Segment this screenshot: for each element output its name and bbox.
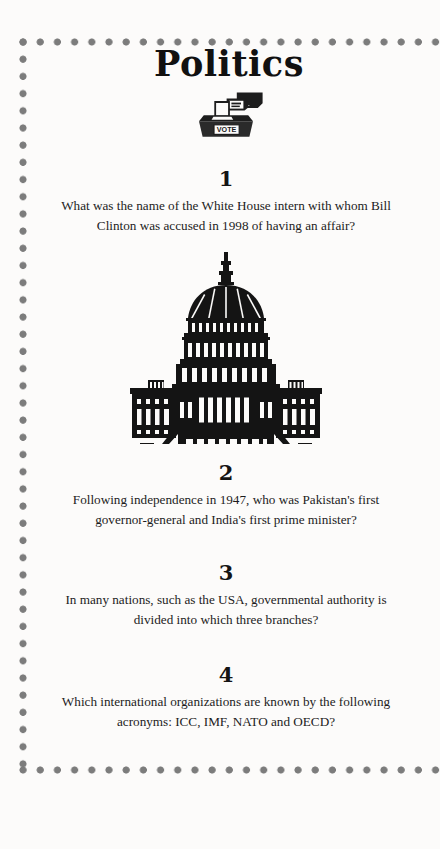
question-3-number: 3 <box>38 562 414 583</box>
content-column: Politics VOTE <box>38 46 414 732</box>
question-4-number: 4 <box>38 664 414 685</box>
question-1-text: What was the name of the White House int… <box>38 196 414 236</box>
question-2-number: 2 <box>38 462 414 483</box>
quiz-page: Politics VOTE <box>0 0 440 849</box>
question-4: 4 Which international organizations are … <box>38 664 414 732</box>
question-2-text: Following independence in 1947, who was … <box>38 490 414 530</box>
ballot-box-vote-icon: VOTE <box>187 90 265 138</box>
question-2: 2 Following independence in 1947, who wa… <box>38 462 414 530</box>
question-1: 1 What was the name of the White House i… <box>38 168 414 236</box>
question-3-text: In many nations, such as the USA, govern… <box>38 590 414 630</box>
us-capitol-building-illustration <box>100 252 352 444</box>
dotted-border-bottom <box>19 766 440 774</box>
question-1-number: 1 <box>38 168 414 189</box>
svg-text:VOTE: VOTE <box>217 125 237 134</box>
page-title: Politics <box>38 46 414 83</box>
question-3: 3 In many nations, such as the USA, gove… <box>38 562 414 630</box>
question-4-text: Which international organizations are kn… <box>38 692 414 732</box>
dotted-border-left <box>19 38 27 774</box>
